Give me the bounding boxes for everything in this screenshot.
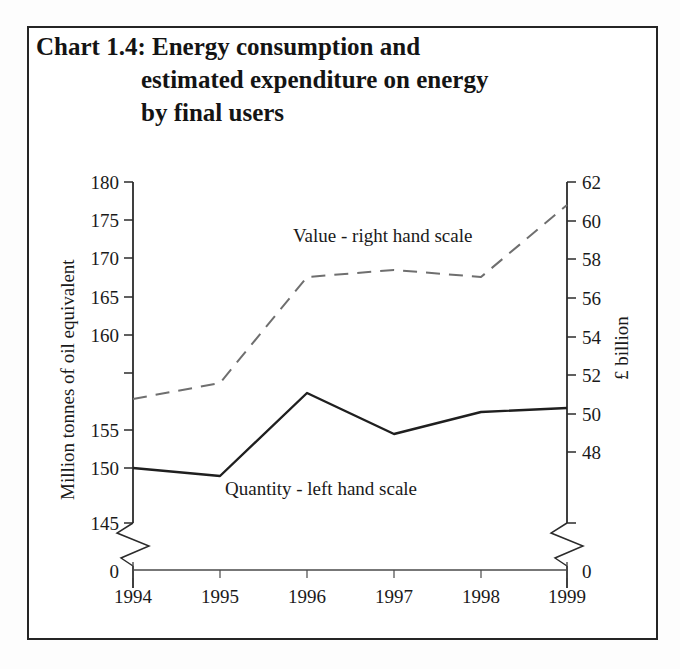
- x-tick-label-1995: 1995: [201, 586, 239, 607]
- right-tick-label-52: 52: [582, 365, 601, 386]
- right-axis-title: £ billion: [611, 316, 632, 380]
- right-tick-label-60: 60: [582, 211, 601, 232]
- x-tick-label-1996: 1996: [288, 586, 326, 607]
- x-tick-label-1994: 1994: [114, 586, 153, 607]
- left-tick-label-zero: 0: [110, 561, 120, 582]
- left-tick-label-150: 150: [91, 458, 120, 479]
- annotation-quantity-series: Quantity - left hand scale: [225, 478, 417, 499]
- x-tick-label-1997: 1997: [375, 586, 413, 607]
- left-tick-label-155b: 155: [91, 420, 120, 441]
- chart-figure: Chart 1.4: Energy consumption and estima…: [0, 0, 680, 669]
- left-tick-label-165: 165: [91, 287, 120, 308]
- left-axis-ticks: [124, 182, 133, 523]
- series-line-quantity: [133, 393, 567, 476]
- x-tick-labels: 1994 1995 1996 1997 1998 1999: [114, 586, 586, 607]
- right-tick-label-62: 62: [582, 172, 601, 193]
- right-tick-label-54: 54: [582, 327, 602, 348]
- left-tick-label-175: 175: [91, 210, 120, 231]
- chart-canvas: 180 175 170 165 160 155 150 145 0 155 62…: [0, 0, 680, 669]
- right-tick-labels: 62 60 58 56 54 52 50 48 0: [582, 172, 602, 582]
- left-axis-break-icon: [117, 523, 149, 566]
- right-tick-label-56: 56: [582, 288, 601, 309]
- x-tick-label-1998: 1998: [462, 586, 500, 607]
- right-tick-label-48: 48: [582, 442, 601, 463]
- annotation-value-series: Value - right hand scale: [293, 225, 472, 246]
- right-axis-break-icon: [551, 523, 583, 566]
- left-tick-label-160: 160: [91, 325, 120, 346]
- right-tick-label-zero: 0: [582, 561, 592, 582]
- left-tick-label-145: 145: [91, 513, 120, 534]
- left-tick-label-170: 170: [91, 248, 120, 269]
- left-tick-label-180: 180: [91, 172, 120, 193]
- x-tick-label-1999: 1999: [548, 586, 586, 607]
- right-tick-label-58: 58: [582, 249, 601, 270]
- right-tick-label-50: 50: [582, 404, 601, 425]
- right-axis-ticks: [567, 182, 576, 523]
- left-axis-title: Million tonnes of oil equivalent: [57, 259, 78, 500]
